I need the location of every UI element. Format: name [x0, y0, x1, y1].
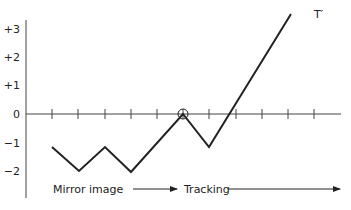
tracking-label: Tracking	[183, 183, 230, 196]
mirror-image-label: Mirror image	[53, 183, 123, 196]
tracking-diagram: +3+2+10−1−2 T′ Mirror image Tracking	[0, 0, 351, 210]
y-tick-label: −1	[4, 137, 20, 150]
y-tick-label: +1	[4, 79, 20, 92]
y-tick-label: +3	[4, 23, 20, 36]
y-tick-label: +2	[4, 51, 20, 64]
end-label-t-prime: T′	[313, 8, 324, 21]
y-axis-labels: +3+2+10−1−2	[4, 23, 20, 178]
y-tick-label: −2	[4, 165, 20, 178]
tracking-trace-line	[52, 14, 291, 172]
y-tick-label: 0	[13, 108, 20, 121]
